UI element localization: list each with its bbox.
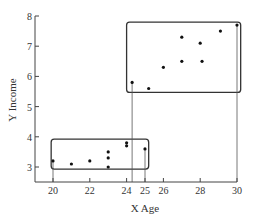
data-point [107, 156, 110, 159]
data-point [70, 162, 73, 165]
data-point [162, 66, 165, 69]
data-point [180, 60, 183, 63]
y-tick-label: 8 [27, 11, 32, 22]
x-tick-label: 26 [158, 185, 168, 196]
y-axis-label: Y Income [6, 78, 18, 121]
data-point [131, 81, 134, 84]
axes [35, 16, 237, 182]
y-tick-label: 7 [27, 41, 32, 52]
data-point [200, 60, 203, 63]
y-tick-label: 3 [27, 162, 32, 173]
data-point [199, 42, 202, 45]
group-boxes [51, 22, 241, 169]
x-tick-label: 22 [85, 185, 95, 196]
data-point [125, 141, 128, 144]
data-point [219, 30, 222, 33]
upper-group-box [127, 22, 241, 92]
x-tick-label: 25 [140, 185, 150, 196]
lower-group-box [51, 139, 149, 169]
x-tick-label: 24 [122, 185, 132, 196]
data-points [51, 23, 238, 168]
data-point [107, 150, 110, 153]
x-axis-label: X Age [131, 202, 160, 214]
scatter-chart: 345678 20222425262830 X Age Y Income [0, 0, 255, 220]
data-point [180, 36, 183, 39]
x-tick-label: 20 [48, 185, 58, 196]
data-point [235, 23, 238, 26]
y-tick-label: 4 [27, 132, 32, 143]
chart-canvas: 345678 20222425262830 X Age Y Income [0, 0, 255, 220]
x-tick-label: 30 [232, 185, 242, 196]
x-tick-label: 28 [195, 185, 205, 196]
data-point [147, 87, 150, 90]
drop-lines [53, 25, 237, 182]
y-tick-label: 6 [27, 71, 32, 82]
x-axis-ticks: 20222425262830 [48, 178, 242, 196]
data-point [88, 159, 91, 162]
data-point [125, 144, 128, 147]
data-point [107, 165, 110, 168]
data-point [143, 147, 146, 150]
y-axis-ticks: 345678 [27, 11, 39, 173]
data-point [51, 159, 54, 162]
y-tick-label: 5 [27, 102, 32, 113]
